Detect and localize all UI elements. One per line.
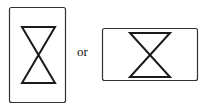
portrait-hourglass-figure	[10, 8, 66, 103]
landscape-hourglass-figure	[103, 29, 198, 81]
diagram-canvas	[0, 0, 208, 109]
connector-label: or	[77, 45, 88, 59]
hourglass-icon	[130, 33, 170, 77]
hourglass-icon	[22, 27, 55, 83]
